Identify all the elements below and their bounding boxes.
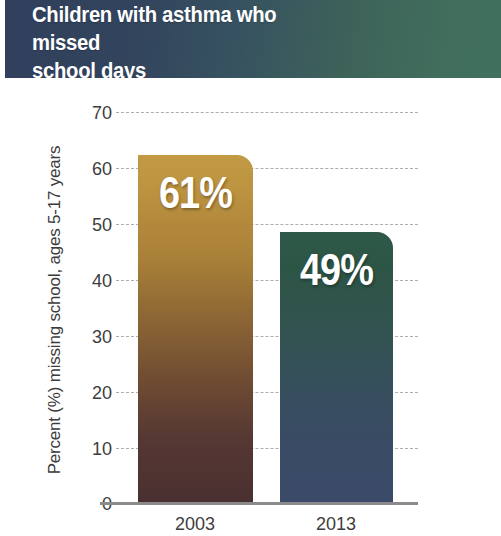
bar-series: 61% 49%	[0, 78, 501, 536]
bar-2013-value-label: 49%	[288, 248, 385, 292]
chart-figure: Children with asthma who missed school d…	[0, 0, 501, 536]
x-axis-line	[100, 502, 418, 505]
bar-2013: 49%	[280, 232, 393, 503]
x-tick-label-2003: 2003	[125, 514, 265, 535]
chart-header-band: Children with asthma who missed school d…	[5, 0, 501, 78]
bar-2003: 61%	[138, 155, 253, 503]
x-tick-label-2013: 2013	[266, 514, 406, 535]
chart-title: Children with asthma who missed school d…	[32, 1, 329, 78]
plot-area: Percent (%) missing school, ages 5-17 ye…	[0, 78, 501, 536]
bar-2003-value-label: 61%	[146, 171, 245, 215]
